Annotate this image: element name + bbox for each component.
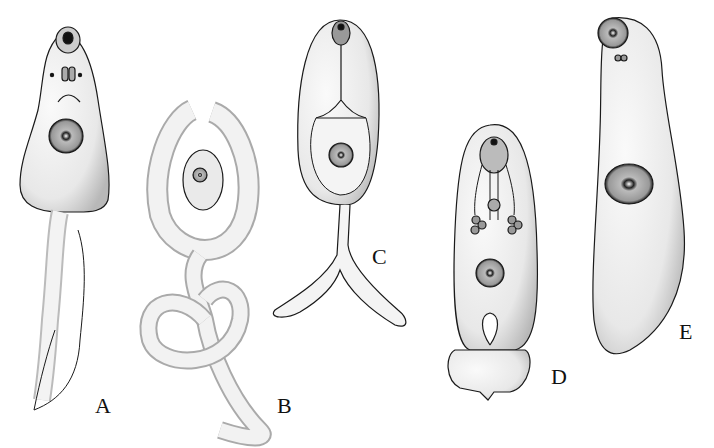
figure-larval-stages: A B C D E <box>0 0 714 448</box>
panel-label-d: D <box>551 366 567 388</box>
panel-label-b: B <box>277 395 292 417</box>
panel-label-a: A <box>95 395 111 417</box>
panel-e-cercaria <box>593 18 685 354</box>
panel-label-e: E <box>679 321 692 343</box>
panel-d-cercaria <box>448 125 537 400</box>
panel-label-c: C <box>372 246 387 268</box>
panel-b-cercaria <box>148 110 262 438</box>
panel-c-cercaria <box>273 20 406 326</box>
panel-a-cercaria <box>20 27 109 410</box>
illustration <box>0 0 714 448</box>
